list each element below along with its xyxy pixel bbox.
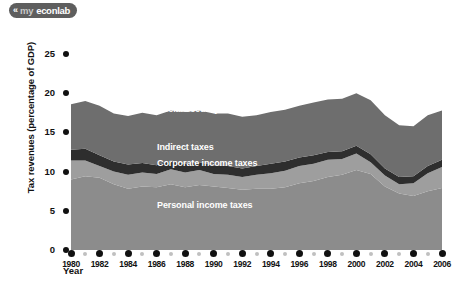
y-axis-tick-dot [63, 51, 69, 57]
x-axis-tick-dot [140, 252, 144, 256]
y-axis-tick-label: 0 [50, 245, 55, 255]
series-label: Social security taxes [157, 104, 244, 114]
x-axis-tick-dot [312, 252, 316, 256]
logo-chevron-icon: « [13, 6, 17, 15]
x-axis-tick-label: 2002 [372, 259, 398, 269]
x-axis-tick-label: 2004 [400, 259, 426, 269]
x-axis-tick-dot [439, 250, 446, 257]
x-axis-tick-dot [381, 250, 388, 257]
x-axis-tick-label: 1988 [172, 259, 198, 269]
x-axis-tick-label: 1990 [201, 259, 227, 269]
series-label: Indirect taxes [157, 142, 214, 152]
y-axis-tick: 25 [0, 49, 71, 59]
y-axis-tick-dot [63, 169, 69, 175]
x-axis-tick-dot [426, 252, 430, 256]
x-axis-tick-dot [112, 252, 116, 256]
x-axis-tick-dot [239, 250, 246, 257]
area-series-svg [71, 54, 442, 250]
branding-bar: « my econlab [0, 0, 458, 22]
y-axis-tick-label: 15 [44, 127, 55, 137]
y-axis-tick: 20 [0, 88, 71, 98]
y-axis-tick-dot [63, 90, 69, 96]
x-axis-tick-label: 1982 [87, 259, 113, 269]
myeconlab-logo: « my econlab [9, 3, 77, 18]
stacked-area-chart: Tax revenues (percentage of GDP) 0510152… [0, 22, 458, 282]
y-axis-tick: 15 [0, 127, 71, 137]
x-axis-tick-dot [369, 252, 373, 256]
y-axis-tick: 0 [0, 245, 71, 255]
x-axis-tick-dot [153, 250, 160, 257]
x-axis-tick-dot [169, 252, 173, 256]
x-axis-tick-dot [353, 250, 360, 257]
x-axis-tick-label: 1998 [315, 259, 341, 269]
x-axis-tick-label: 1994 [258, 259, 284, 269]
logo-suffix-text: econlab [36, 6, 70, 16]
y-axis-tick-dot [63, 208, 69, 214]
x-axis-tick-dot [410, 250, 417, 257]
x-axis-tick-label: 1984 [115, 259, 141, 269]
x-axis-tick-dot [255, 252, 259, 256]
y-axis-tick-label: 20 [44, 88, 55, 98]
x-axis-ticks: 1980198219841986198819901992199419961998… [71, 250, 442, 274]
logo-prefix-text: my [20, 6, 33, 16]
y-axis-tick-label: 10 [44, 167, 55, 177]
series-label: Personal income taxes [157, 200, 252, 210]
x-axis-tick-dot [226, 252, 230, 256]
y-axis-tick-label: 5 [50, 206, 55, 216]
x-axis-tick-dot [197, 252, 201, 256]
x-axis-tick-label: 2000 [343, 259, 369, 269]
x-axis-tick-dot [182, 250, 189, 257]
x-axis-tick-dot [283, 252, 287, 256]
x-axis-tick-dot [68, 250, 75, 257]
y-axis-tick: 5 [0, 206, 71, 216]
x-axis-tick-dot [267, 250, 274, 257]
x-axis-tick-label: 2006 [429, 259, 455, 269]
x-axis-tick-label: 1986 [144, 259, 170, 269]
plot-area: Social security taxesIndirect taxesCorpo… [71, 54, 442, 250]
x-axis-tick-label: 1996 [286, 259, 312, 269]
x-axis-tick-label: 1992 [229, 259, 255, 269]
x-axis-tick-dot [96, 250, 103, 257]
x-axis-title: Year [63, 265, 83, 276]
y-axis-tick: 10 [0, 167, 71, 177]
x-axis-tick-dot [210, 250, 217, 257]
x-axis-tick-dot [296, 250, 303, 257]
x-axis-tick-dot [340, 252, 344, 256]
x-axis-tick-dot [324, 250, 331, 257]
x-axis-tick-dot [397, 252, 401, 256]
y-axis-tick-dot [63, 129, 69, 135]
series-label: Corporate income taxes [157, 158, 257, 168]
x-axis-tick-dot [83, 252, 87, 256]
y-axis-tick-label: 25 [44, 49, 55, 59]
x-axis-tick-dot [125, 250, 132, 257]
